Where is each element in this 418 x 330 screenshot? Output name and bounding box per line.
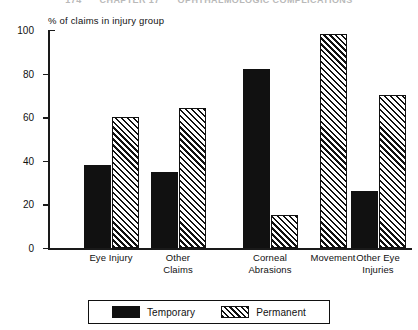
- legend-swatch-temporary-icon: [112, 306, 140, 318]
- legend-swatch-permanent-icon: [221, 306, 249, 318]
- y-axis-line: [48, 30, 50, 248]
- y-axis-tick: [48, 30, 55, 31]
- y-axis-tick-label: 0: [28, 243, 34, 254]
- bar-temporary-other-eye-injuries: [351, 191, 378, 248]
- bar-temporary-other-claims: [151, 172, 178, 248]
- bar-chart-figure: % of claims in injury group 020406080100…: [0, 0, 418, 330]
- bar-temporary-corneal-abrasions: [243, 69, 270, 248]
- y-axis-title: % of claims in injury group: [48, 15, 164, 26]
- y-axis-tick-label: 80: [23, 68, 34, 79]
- legend-item-temporary: Temporary: [112, 306, 195, 318]
- bar-permanent-other-claims: [179, 108, 206, 248]
- bar-permanent-movement: [320, 34, 347, 248]
- y-axis-tick: [43, 248, 48, 249]
- legend-item-permanent: Permanent: [221, 306, 306, 318]
- plot-area: 020406080100 Eye InjuryOtherClaimsCornea…: [48, 30, 412, 248]
- y-axis-tick-label: 40: [23, 155, 34, 166]
- legend-label-temporary: Temporary: [147, 307, 195, 318]
- y-axis-tick-label: 60: [23, 112, 34, 123]
- y-axis-tick: [43, 204, 48, 205]
- y-axis-tick: [43, 117, 48, 118]
- x-axis-line: [48, 248, 412, 250]
- bar-temporary-eye-injury: [84, 165, 111, 248]
- bar-permanent-corneal-abrasions: [271, 215, 298, 248]
- x-axis-label-other-claims: OtherClaims: [134, 252, 222, 275]
- y-axis-tick: [43, 161, 48, 162]
- bar-permanent-eye-injury: [112, 117, 139, 248]
- y-axis-tick: [43, 74, 48, 75]
- y-axis-tick-label: 20: [23, 199, 34, 210]
- bar-permanent-other-eye-injuries: [379, 95, 406, 248]
- legend-label-permanent: Permanent: [256, 307, 306, 318]
- y-axis-tick-label: 100: [17, 25, 34, 36]
- chart-legend: Temporary Permanent: [88, 300, 330, 324]
- x-axis-label-other-eye-injuries: Other EyeInjuries: [334, 252, 418, 275]
